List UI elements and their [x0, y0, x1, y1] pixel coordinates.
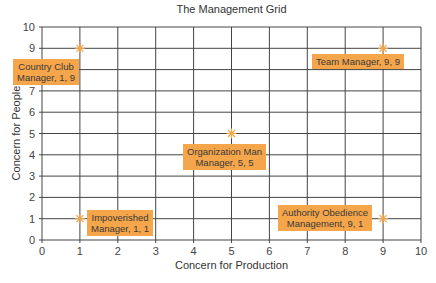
y-tick-label: 4: [29, 149, 35, 161]
label-country-club: Country Club Manager, 1, 9: [13, 59, 79, 85]
y-tick-label: 9: [29, 42, 35, 54]
y-tick-label: 0: [29, 234, 35, 246]
label-organization-man: Organization Man Manager, 5, 5: [183, 144, 266, 170]
y-tick-label: 3: [29, 170, 35, 182]
y-axis-label: Concern for People: [10, 73, 22, 193]
y-tick-label: 2: [29, 191, 35, 203]
star-marker-icon: [75, 214, 85, 224]
x-tick-label: 10: [415, 245, 427, 257]
x-tick-label: 5: [228, 245, 234, 257]
x-tick-label: 0: [39, 245, 45, 257]
y-tick-label: 6: [29, 106, 35, 118]
label-impoverished: Impoverished Manager, 1, 1: [87, 210, 153, 236]
label-team-manager: Team Manager, 9, 9: [312, 54, 404, 69]
x-tick-label: 4: [191, 245, 197, 257]
x-tick-label: 7: [304, 245, 310, 257]
x-tick-label: 8: [342, 245, 348, 257]
star-marker-icon: [227, 129, 237, 139]
star-marker-icon: [378, 214, 388, 224]
y-tick-label: 10: [23, 21, 35, 33]
x-tick-label: 2: [115, 245, 121, 257]
x-tick-label: 6: [266, 245, 272, 257]
label-authority-obedience: Authority Obedience Management, 9, 1: [278, 205, 372, 231]
x-tick-label: 9: [380, 245, 386, 257]
x-tick-label: 3: [153, 245, 159, 257]
star-marker-icon: [75, 43, 85, 53]
x-axis-label: Concern for Production: [42, 259, 421, 271]
y-tick-label: 1: [29, 213, 35, 225]
plot-area: 012345678910012345678910: [0, 0, 436, 283]
y-tick-label: 5: [29, 128, 35, 140]
star-marker-icon: [378, 43, 388, 53]
y-tick-label: 7: [29, 85, 35, 97]
x-tick-label: 1: [77, 245, 83, 257]
